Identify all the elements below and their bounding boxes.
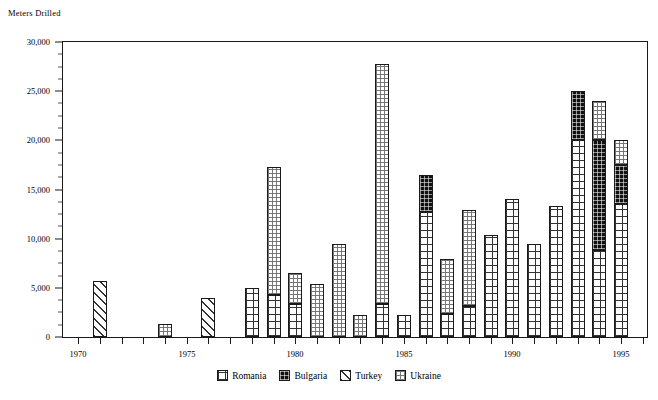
legend-label: Bulgaria [294,371,327,381]
bar-segment-ukraine [592,101,606,140]
bar-segment-romania [614,204,628,337]
bar-stack [549,42,563,337]
x-axis-tick [556,338,557,344]
bar-stack [267,42,281,337]
bar-segment-ukraine [158,324,172,337]
y-axis-tick-label: 30,000 [27,37,50,47]
bar-segment-romania [267,295,281,337]
legend-item-ukraine[interactable]: Ukraine [395,370,441,381]
bar-segment-bulgaria [592,140,606,250]
x-axis-tick [187,338,188,344]
bar-segment-ukraine [267,167,281,295]
y-axis: 05,00010,00015,00020,00025,00030,000 [0,0,62,400]
bar-stack [440,42,454,337]
legend-swatch-ukraine-icon [395,370,406,381]
bar-stack [245,42,259,337]
x-axis-tick [447,338,448,344]
chart-legend: RomaniaBulgariaTurkeyUkraine [0,370,658,381]
y-axis-tick-label: 20,000 [27,135,50,145]
bar-stack [310,42,324,337]
x-axis-tick [469,338,470,344]
y-axis-tick-label: 0 [46,332,50,342]
bar-segment-bulgaria [419,175,433,212]
y-axis-tick [55,337,62,338]
bar-segment-romania [484,235,498,337]
x-axis-tick [426,338,427,344]
bar-segment-ukraine [375,64,389,304]
x-axis-tick [599,338,600,344]
bar-stack [93,42,107,337]
x-axis-tick-label: 1980 [287,349,304,359]
x-axis-tick [643,338,644,344]
plot-area [63,42,647,337]
x-axis-tick [404,338,405,344]
bar-stack [201,42,215,337]
x-axis-tick [122,338,123,344]
bar-segment-ukraine [288,273,302,304]
y-axis-tick [55,140,62,141]
x-axis-tick [230,338,231,344]
bar-segment-turkey [93,281,107,337]
bar-stack [397,42,411,337]
bar-segment-ukraine [462,210,476,305]
y-axis-tick [55,287,62,288]
x-axis-tick [360,338,361,344]
bar-segment-turkey [201,298,215,337]
x-axis-tick [274,338,275,344]
bar-stack [375,42,389,337]
y-axis-tick-label: 5,000 [31,283,50,293]
bar-stack [484,42,498,337]
x-axis-tick [491,338,492,344]
bar-stack [527,42,541,337]
y-axis-tick-label: 15,000 [27,185,50,195]
bar-segment-romania [505,199,519,337]
legend-item-bulgaria[interactable]: Bulgaria [279,370,327,381]
x-axis-tick-label: 1995 [613,349,630,359]
bar-segment-bulgaria [571,91,585,140]
x-axis-tick [339,338,340,344]
bar-segment-romania [549,206,563,337]
x-axis-tick [317,338,318,344]
x-axis-tick [208,338,209,344]
bar-stack [288,42,302,337]
bar-stack [505,42,519,337]
y-axis-tick [55,42,62,43]
bar-stack [592,42,606,337]
bar-segment-ukraine [332,244,346,337]
bar-segment-romania [440,314,454,337]
legend-label: Ukraine [410,371,441,381]
x-axis-tick [100,338,101,344]
bar-segment-ukraine [614,140,628,165]
legend-item-romania[interactable]: Romania [217,370,266,381]
y-axis-tick [55,91,62,92]
x-axis-tick-label: 1970 [70,349,87,359]
bar-segment-romania [375,304,389,337]
bar-segment-romania [288,304,302,337]
y-axis-tick-label: 25,000 [27,86,50,96]
x-axis-tick [165,338,166,344]
bar-segment-romania [592,250,606,337]
x-axis-tick [621,338,622,344]
legend-item-turkey[interactable]: Turkey [340,370,382,381]
legend-label: Turkey [355,371,382,381]
x-axis-tick-label: 1975 [179,349,196,359]
bar-segment-romania [419,212,433,337]
x-axis-tick [534,338,535,344]
legend-swatch-turkey-icon [340,370,351,381]
bar-segment-ukraine [310,284,324,337]
legend-swatch-bulgaria-icon [279,370,290,381]
bar-segment-bulgaria [614,165,628,204]
y-axis-tick [55,189,62,190]
bar-segment-romania [571,140,585,337]
x-axis-tick [382,338,383,344]
bar-stack [419,42,433,337]
x-axis-tick [143,338,144,344]
meters-drilled-chart: Meters Drilled 05,00010,00015,00020,0002… [0,0,658,400]
x-axis-tick [252,338,253,344]
x-axis-tick [512,338,513,344]
y-axis-tick [55,238,62,239]
legend-swatch-romania-icon [217,370,228,381]
bar-segment-romania [462,306,476,337]
x-axis-tick-label: 1990 [504,349,521,359]
bar-stack [462,42,476,337]
